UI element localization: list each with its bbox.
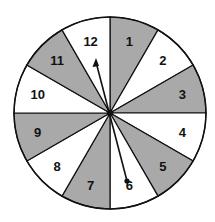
sector-label: 9 [34,125,41,140]
sector-label: 4 [179,125,187,140]
sector-label: 12 [83,34,97,49]
sector-label: 10 [30,87,44,102]
sector-label: 5 [159,159,166,174]
sector-label: 2 [159,53,166,68]
spinner-hub [107,110,113,116]
sector-label: 1 [126,34,133,49]
sector-label: 7 [87,178,94,193]
arrow-tail-dot [124,178,129,183]
sector-label: 11 [50,53,64,68]
sector-label: 3 [179,87,186,102]
sector-label: 8 [53,159,60,174]
spinner-diagram: 123456789101112 [0,0,215,222]
spinner: 123456789101112 [0,0,215,222]
